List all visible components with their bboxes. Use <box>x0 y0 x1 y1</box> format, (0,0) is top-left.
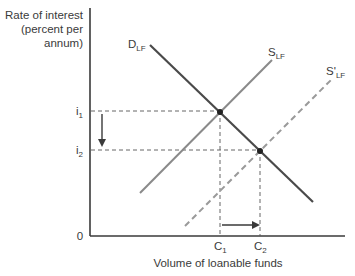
x-tick-c2: C2 <box>254 240 267 255</box>
slf-shifted-label: S'LF <box>326 65 345 80</box>
y-tick-i2: i2 <box>76 144 84 159</box>
x-axis-label: Volume of loanable funds <box>153 257 282 269</box>
y-tick-i1: i1 <box>76 105 84 120</box>
svg-text:i1: i1 <box>76 105 84 120</box>
c1-label: C <box>214 240 222 252</box>
origin-label: 0 <box>77 230 83 242</box>
loanable-funds-chart: Rate of interest (percent per annum) 0 i… <box>0 0 355 276</box>
equilibrium-point-2 <box>257 148 263 154</box>
svg-text:i2: i2 <box>76 144 84 159</box>
c2-label: C <box>254 240 262 252</box>
i1-subscript: 1 <box>79 111 84 120</box>
equilibrium-point-1 <box>217 109 223 115</box>
dlf-label: DLF <box>128 38 146 53</box>
c2-subscript: 2 <box>262 246 267 255</box>
y-axis-label-line-2: (percent per <box>21 23 83 35</box>
slf-label: SLF <box>268 46 285 61</box>
supply-curve-slf <box>140 60 272 193</box>
svg-text:C2: C2 <box>254 240 267 255</box>
svg-text:C1: C1 <box>214 240 227 255</box>
y-axis-label-line-1: Rate of interest <box>5 9 84 21</box>
i2-subscript: 2 <box>79 150 84 159</box>
c1-subscript: 1 <box>222 246 227 255</box>
y-axis-label-line-3: annum) <box>44 37 83 49</box>
x-tick-c1: C1 <box>214 240 227 255</box>
